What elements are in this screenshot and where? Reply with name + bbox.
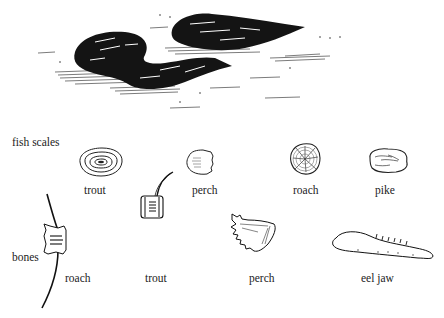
pike-scale-icon <box>366 146 410 176</box>
bone-label-perch: perch <box>249 273 275 285</box>
roach-vertebra-icon <box>36 192 76 312</box>
scale-label-roach: roach <box>293 185 319 197</box>
perch-scale-icon <box>183 148 215 176</box>
bone-label-roach: roach <box>65 273 91 285</box>
trout-scale-icon <box>76 146 126 178</box>
scale-label-pike: pike <box>375 185 395 197</box>
spraint-drawing <box>0 0 444 120</box>
eel-jaw-icon <box>328 228 438 268</box>
perch-bone-icon <box>228 212 278 256</box>
bone-label-trout: trout <box>145 273 167 285</box>
spraint-right <box>172 14 305 51</box>
bones-heading: bones <box>12 252 39 264</box>
roach-scale-icon <box>288 142 322 176</box>
fish-scales-heading: fish scales <box>12 137 60 149</box>
bone-label-eel-jaw: eel jaw <box>361 273 394 285</box>
scale-label-perch: perch <box>192 185 218 197</box>
trout-vertebra-icon <box>135 170 175 230</box>
scale-label-trout: trout <box>84 185 106 197</box>
